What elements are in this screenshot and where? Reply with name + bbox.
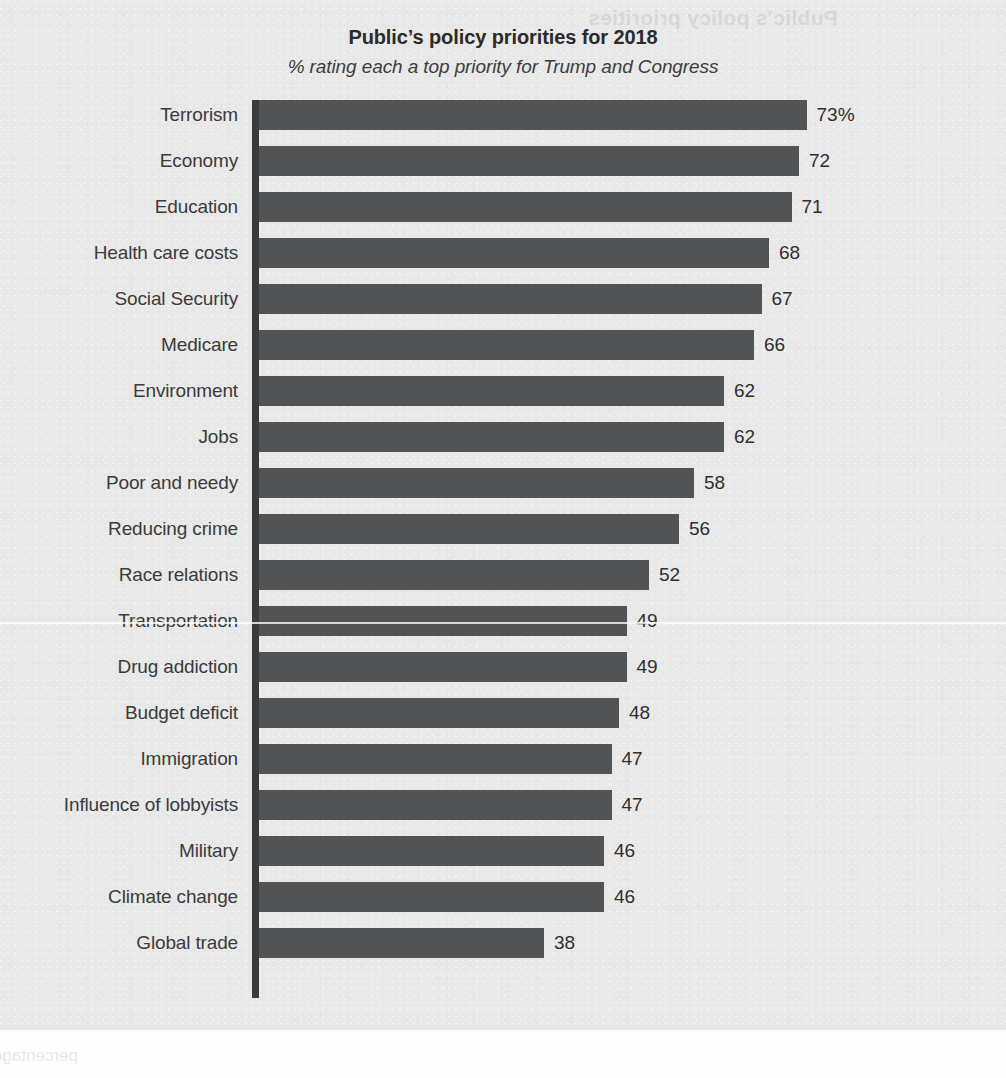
bar-row: Race relations52 (0, 560, 1006, 606)
bar-row: Jobs62 (0, 422, 1006, 468)
bar-row: Social Security67 (0, 284, 1006, 330)
bar-value-label: 72 (809, 146, 830, 176)
bar-category-label: Poor and needy (0, 468, 238, 498)
bar-row: Health care costs68 (0, 238, 1006, 284)
bar-row: Global trade38 (0, 928, 1006, 974)
bar-category-label: Reducing crime (0, 514, 238, 544)
bar-value-label: 46 (614, 836, 635, 866)
chart-page: Public’s policy priorities Public’s poli… (0, 0, 1006, 1078)
bar (259, 146, 799, 176)
bar-row: Economy72 (0, 146, 1006, 192)
bar-row: Climate change46 (0, 882, 1006, 928)
bar-row: Education71 (0, 192, 1006, 238)
bar-category-label: Global trade (0, 928, 238, 958)
bar-category-label: Transportation (0, 606, 238, 636)
bar (259, 330, 754, 360)
bar-category-label: Medicare (0, 330, 238, 360)
bar-row: Transportation49 (0, 606, 1006, 652)
bar-row: Reducing crime56 (0, 514, 1006, 560)
bar-category-label: Economy (0, 146, 238, 176)
bar-value-label: 66 (764, 330, 785, 360)
bar-value-label: 58 (704, 468, 725, 498)
bar-value-label: 47 (622, 744, 643, 774)
bar-value-label: 47 (622, 790, 643, 820)
bar (259, 882, 604, 912)
bar-row: Poor and needy58 (0, 468, 1006, 514)
bar-value-label: 48 (629, 698, 650, 728)
bar (259, 376, 724, 406)
chart-title: Public’s policy priorities for 2018 (0, 26, 1006, 49)
bar-value-label: 67 (772, 284, 793, 314)
bar-value-label: 73% (817, 100, 855, 130)
bar-value-label: 49 (637, 652, 658, 682)
bar-row: Drug addiction49 (0, 652, 1006, 698)
bar-category-label: Race relations (0, 560, 238, 590)
bar-value-label: 71 (802, 192, 823, 222)
bar (259, 928, 544, 958)
bar-category-label: Terrorism (0, 100, 238, 130)
bar-value-label: 68 (779, 238, 800, 268)
bar-value-label: 62 (734, 422, 755, 452)
bar (259, 560, 649, 590)
bar (259, 192, 792, 222)
bar-category-label: Education (0, 192, 238, 222)
bar (259, 652, 627, 682)
bar (259, 100, 807, 130)
bar-category-label: Immigration (0, 744, 238, 774)
bar-category-label: Climate change (0, 882, 238, 912)
bar (259, 836, 604, 866)
bar-category-label: Budget deficit (0, 698, 238, 728)
chart-subtitle: % rating each a top priority for Trump a… (0, 56, 1006, 78)
page-bottom-margin (0, 1030, 1006, 1078)
bar (259, 514, 679, 544)
bar-row: Military46 (0, 836, 1006, 882)
bar-value-label: 46 (614, 882, 635, 912)
bar (259, 422, 724, 452)
bar-category-label: Jobs (0, 422, 238, 452)
bar-category-label: Drug addiction (0, 652, 238, 682)
bar-row: Budget deficit48 (0, 698, 1006, 744)
bar-row: Environment62 (0, 376, 1006, 422)
bar-row: Terrorism73% (0, 100, 1006, 146)
bar-row: Medicare66 (0, 330, 1006, 376)
bar-category-label: Health care costs (0, 238, 238, 268)
bar-value-label: 49 (637, 606, 658, 636)
bar-row: Influence of lobbyists47 (0, 790, 1006, 836)
bar-chart-plot-area: Terrorism73%Economy72Education71Health c… (0, 100, 1006, 1000)
bar-value-label: 56 (689, 514, 710, 544)
bar-category-label: Military (0, 836, 238, 866)
bar (259, 606, 627, 636)
bar (259, 238, 769, 268)
bar-category-label: Environment (0, 376, 238, 406)
bar-value-label: 38 (554, 928, 575, 958)
bar-value-label: 52 (659, 560, 680, 590)
bar (259, 468, 694, 498)
bar (259, 790, 612, 820)
bar-category-label: Influence of lobbyists (0, 790, 238, 820)
bar (259, 698, 619, 728)
bar (259, 744, 612, 774)
bar (259, 284, 762, 314)
bar-value-label: 62 (734, 376, 755, 406)
bar-row: Immigration47 (0, 744, 1006, 790)
bar-category-label: Social Security (0, 284, 238, 314)
ghost-bleedthrough-bottom: percentage of adults who say each should… (0, 1046, 78, 1066)
